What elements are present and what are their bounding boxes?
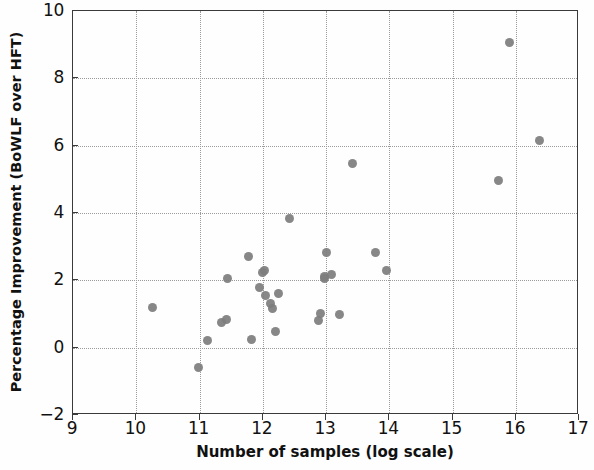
data-point xyxy=(335,310,344,319)
data-point xyxy=(316,309,325,318)
gridline-horizontal xyxy=(73,348,577,349)
y-axis-tick xyxy=(72,145,78,146)
data-point xyxy=(505,38,514,47)
data-point xyxy=(244,252,253,261)
x-axis-label: Number of samples (log scale) xyxy=(72,443,578,461)
data-point xyxy=(371,248,380,257)
x-axis-tick-label: 17 xyxy=(567,418,588,438)
y-axis-tick xyxy=(72,347,78,348)
data-point xyxy=(260,266,269,275)
data-point xyxy=(148,303,157,312)
y-axis-label: Percentage Improvement (BoWLF over HFT) xyxy=(8,32,24,393)
data-point xyxy=(494,176,503,185)
x-axis-tick-label: 13 xyxy=(314,418,335,438)
data-point xyxy=(268,304,277,313)
gridline-vertical xyxy=(136,11,137,413)
y-axis-tick-label: 2 xyxy=(53,269,64,289)
x-axis-tick-label: 10 xyxy=(125,418,146,438)
data-point xyxy=(327,270,336,279)
scatter-plot-figure: Number of samples (log scale) Percentage… xyxy=(0,0,594,470)
y-axis-tick-label: 0 xyxy=(53,337,64,357)
gridline-vertical xyxy=(200,11,201,413)
data-point xyxy=(348,159,357,168)
data-point xyxy=(271,327,280,336)
data-point xyxy=(274,289,283,298)
y-axis-tick xyxy=(72,77,78,78)
gridline-vertical xyxy=(516,11,517,413)
x-axis-tick-label: 16 xyxy=(504,418,525,438)
gridline-horizontal xyxy=(73,146,577,147)
plot-area xyxy=(72,10,578,414)
data-point xyxy=(223,274,232,283)
gridline-vertical xyxy=(389,11,390,413)
data-point xyxy=(222,315,231,324)
x-axis-tick-label: 11 xyxy=(188,418,209,438)
data-point xyxy=(322,248,331,257)
data-point xyxy=(194,363,203,372)
y-axis-tick-label: 6 xyxy=(53,135,64,155)
x-axis-tick-label: 9 xyxy=(67,418,78,438)
data-point xyxy=(535,136,544,145)
gridline-vertical xyxy=(453,11,454,413)
x-axis-tick-label: 12 xyxy=(251,418,272,438)
y-axis-tick-label: 4 xyxy=(53,202,64,222)
gridline-horizontal xyxy=(73,78,577,79)
x-axis-tick-label: 14 xyxy=(378,418,399,438)
y-axis-tick-label: 10 xyxy=(43,0,64,20)
y-axis-tick xyxy=(72,279,78,280)
gridline-horizontal xyxy=(73,213,577,214)
x-axis-tick-label: 15 xyxy=(441,418,462,438)
y-axis-tick xyxy=(72,414,78,415)
gridline-vertical xyxy=(326,11,327,413)
data-point xyxy=(285,214,294,223)
y-axis-tick xyxy=(72,10,78,11)
data-point xyxy=(203,336,212,345)
data-point xyxy=(247,335,256,344)
y-axis-tick xyxy=(72,212,78,213)
y-axis-tick-label: 8 xyxy=(53,67,64,87)
gridline-vertical xyxy=(263,11,264,413)
data-point xyxy=(382,266,391,275)
y-axis-tick-label: −2 xyxy=(40,404,64,424)
